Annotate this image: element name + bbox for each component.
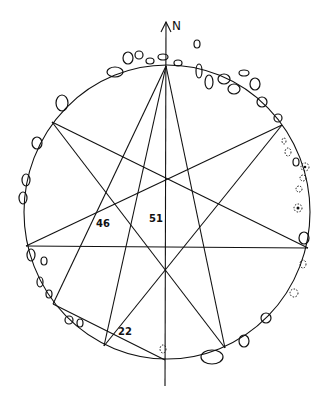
stones bbox=[19, 40, 309, 364]
north-axis bbox=[165, 22, 166, 386]
north-label: N bbox=[172, 19, 181, 33]
dotted-stones bbox=[160, 138, 309, 353]
label-46: 46 bbox=[96, 218, 110, 229]
label-22: 22 bbox=[118, 326, 132, 337]
stone-circle-diagram: N 46 51 22 bbox=[0, 0, 333, 403]
label-51: 51 bbox=[149, 213, 163, 224]
outer-circle bbox=[24, 65, 310, 359]
